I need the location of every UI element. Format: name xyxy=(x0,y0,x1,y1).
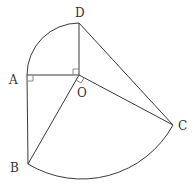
right-angle-mark-o-top xyxy=(73,69,79,75)
segment-oc xyxy=(79,75,173,125)
arc-bc xyxy=(28,125,173,179)
segment-ob xyxy=(28,75,79,164)
segment-dc xyxy=(79,23,173,125)
label-o: O xyxy=(77,86,87,100)
segment-ab xyxy=(27,75,28,164)
label-c: C xyxy=(178,119,187,133)
diagram-svg: D A O C B xyxy=(0,0,196,189)
label-a: A xyxy=(8,73,18,87)
geometry-diagram: D A O C B xyxy=(0,0,196,189)
label-b: B xyxy=(10,161,19,175)
arc-ad xyxy=(27,23,79,75)
right-angle-mark-a xyxy=(27,75,33,81)
label-d: D xyxy=(75,6,85,20)
